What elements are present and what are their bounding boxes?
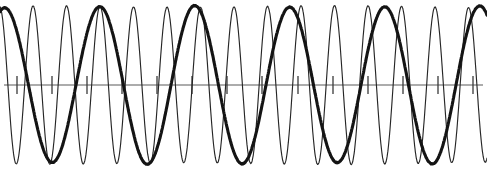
waveform-figure xyxy=(0,0,487,171)
waveform-canvas xyxy=(0,0,487,171)
